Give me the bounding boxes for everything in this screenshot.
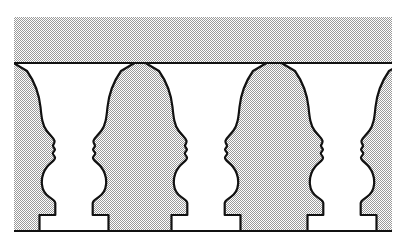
top-gray-band <box>14 17 392 62</box>
illusion-figure: Rubin vase / facing profiles reversible … <box>0 0 412 250</box>
illusion-panel <box>14 17 403 232</box>
rubin-vase-illusion-svg <box>0 0 412 250</box>
